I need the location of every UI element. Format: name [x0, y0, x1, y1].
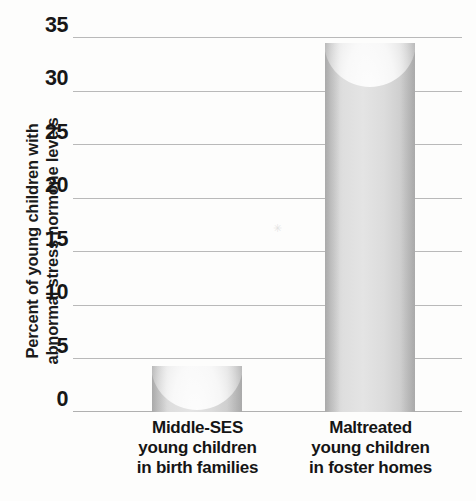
bar-shade-right: [227, 366, 242, 412]
bar-middle-ses-birth-families[interactable]: [152, 366, 242, 412]
x-label-2-line-2: young children: [278, 438, 463, 458]
y-tick-label-30: 30: [14, 66, 68, 91]
bar-cylinder-top: [325, 43, 415, 87]
bar-shade-left: [152, 366, 167, 412]
x-label-1-line-3: in birth families: [105, 458, 290, 478]
x-label-2-line-1: Maltreated: [278, 418, 463, 438]
bar-cylinder-top: [152, 366, 242, 410]
bar-maltreated-foster-homes[interactable]: [325, 43, 415, 412]
y-tick-label-25: 25: [14, 120, 68, 145]
bar-shade-right: [400, 43, 415, 412]
y-tick-label-20: 20: [14, 173, 68, 198]
y-axis-title: Percent of young children with abnormal …: [19, 46, 65, 436]
y-tick-label-15: 15: [14, 227, 68, 252]
x-label-1-line-1: Middle-SES: [105, 418, 290, 438]
x-label-2-line-3: in foster homes: [278, 458, 463, 478]
x-axis-label-maltreated: Maltreated young children in foster home…: [278, 418, 463, 478]
bar-chart-figure: Percent of young children with abnormal …: [0, 0, 476, 501]
y-tick-label-10: 10: [14, 280, 68, 305]
y-axis-title-line-1: Percent of young children with: [22, 117, 42, 364]
plot-area: ✳: [73, 37, 462, 412]
y-tick-label-0: 0: [14, 387, 68, 412]
scan-artifact: ✳: [273, 222, 282, 235]
y-axis-title-line-2: abnormal stress hormone levels: [42, 117, 62, 364]
gridline-35: [73, 37, 462, 38]
y-tick-label-35: 35: [14, 13, 68, 38]
x-label-1-line-2: young children: [105, 438, 290, 458]
bar-shade-left: [325, 43, 340, 412]
y-tick-label-5: 5: [14, 334, 68, 359]
x-axis-label-middle-ses: Middle-SES young children in birth famil…: [105, 418, 290, 478]
